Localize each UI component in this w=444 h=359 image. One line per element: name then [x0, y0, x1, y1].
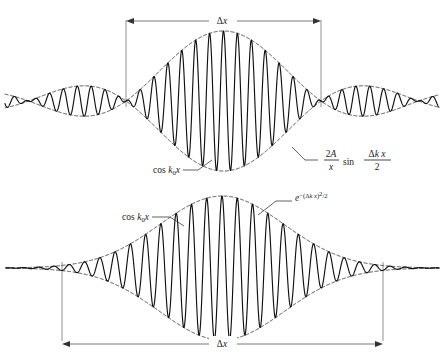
- wave-packet-figure: Δx cos k0x 2A x: [0, 0, 444, 359]
- top-env-label-function: sin: [343, 157, 354, 167]
- bottom-envelope-upper: [6, 196, 439, 268]
- top-envelope-lower: [5, 101, 439, 171]
- top-envelope-label: 2A x sin Δk x 2: [324, 149, 391, 172]
- top-env-label-denominator: x: [328, 162, 334, 172]
- figure-canvas: Δx cos k0x 2A x: [0, 0, 444, 359]
- bottom-envelope-leader-line: [258, 201, 292, 215]
- top-panel: Δx cos k0x 2A x: [5, 13, 439, 176]
- bottom-panel: Δx cos k0x e−(Δk x)2/2: [6, 190, 439, 351]
- top-left-arrowhead-icon: [126, 18, 134, 24]
- top-dimension-label: Δx: [217, 16, 228, 26]
- bottom-wave-curve: [6, 196, 439, 339]
- top-carrier-label: cos k0x: [153, 165, 181, 176]
- top-carrier-leader-line: [183, 160, 212, 170]
- bottom-envelope-label: e−(Δk x)2/2: [295, 190, 328, 203]
- top-envelope-leader-line: [292, 147, 318, 160]
- bottom-envelope-lower: [6, 268, 439, 340]
- bottom-carrier-label: cos k0x: [122, 212, 150, 223]
- bottom-right-arrowhead-icon: [375, 341, 383, 347]
- bottom-dimension-label: Δx: [217, 339, 228, 349]
- top-env-label-numerator: 2A: [326, 149, 337, 159]
- top-env-label-arg-numerator: Δk x: [369, 149, 387, 159]
- bottom-left-arrowhead-icon: [62, 341, 70, 347]
- top-right-arrowhead-icon: [313, 18, 321, 24]
- top-env-label-arg-denominator: 2: [375, 162, 380, 172]
